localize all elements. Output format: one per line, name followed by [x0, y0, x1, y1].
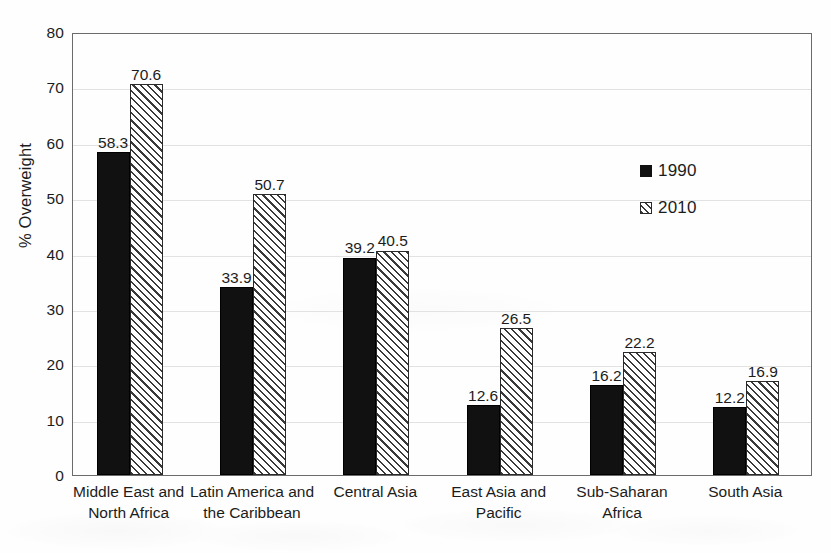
x-axis-label-line-2: the Caribbean: [177, 502, 327, 523]
y-axis-tick-labels: 80706050403020100: [18, 33, 64, 476]
solid-square-icon: [640, 165, 652, 177]
x-axis-label-line-1: Central Asia: [334, 483, 418, 500]
bar-value-label: 33.9: [221, 270, 251, 286]
bar-chart: % Overweight 80706050403020100 58.370.63…: [0, 0, 831, 553]
x-axis-label-line-1: Latin America and: [190, 483, 314, 500]
legend-item-2010[interactable]: 2010: [640, 195, 760, 221]
x-axis-label-south-asia: South Asia: [670, 481, 820, 502]
bar-group: 33.950.7: [220, 34, 286, 475]
chart-legend: 19902010: [640, 158, 760, 232]
bar-value-label: 12.6: [468, 388, 498, 404]
gridline-30: [73, 311, 811, 312]
legend-item-label: 2010: [658, 198, 697, 218]
bar-1990-east-asia-and-pacific[interactable]: 12.6: [467, 405, 500, 475]
y-tick-label-10: 10: [24, 413, 64, 429]
gridline-20: [73, 366, 811, 367]
bar-group: 12.626.5: [467, 34, 533, 475]
bar-value-label: 70.6: [131, 67, 161, 83]
bar-value-label: 39.2: [345, 240, 375, 256]
bar-value-label: 58.3: [98, 135, 128, 151]
bar-2010-middle-east-and-north-africa[interactable]: 70.6: [130, 84, 163, 475]
x-axis-label-line-1: South Asia: [708, 483, 782, 500]
x-axis-label-line-1: Sub-Saharan: [576, 483, 667, 500]
gridline-60: [73, 145, 811, 146]
bar-2010-east-asia-and-pacific[interactable]: 26.5: [500, 328, 533, 475]
y-tick-label-30: 30: [24, 302, 64, 318]
bar-1990-sub-saharan-africa[interactable]: 16.2: [590, 385, 623, 475]
y-tick-label-60: 60: [24, 136, 64, 152]
gridline-10: [73, 422, 811, 423]
bar-value-label: 40.5: [378, 233, 408, 249]
y-tick-label-40: 40: [24, 247, 64, 263]
bar-value-label: 16.9: [748, 364, 778, 380]
bar-2010-central-asia[interactable]: 40.5: [376, 251, 409, 475]
y-tick-label-20: 20: [24, 358, 64, 374]
bar-1990-central-asia[interactable]: 39.2: [343, 258, 376, 475]
bar-group: 58.370.6: [97, 34, 163, 475]
hatched-square-icon: [640, 202, 652, 214]
y-tick-label-70: 70: [24, 81, 64, 97]
x-axis-label-line-2: Africa: [547, 502, 697, 523]
y-tick-label-80: 80: [24, 25, 64, 41]
legend-item-1990[interactable]: 1990: [640, 158, 760, 184]
gridline-70: [73, 89, 811, 90]
bar-2010-sub-saharan-africa[interactable]: 22.2: [623, 352, 656, 475]
bar-value-label: 50.7: [254, 177, 284, 193]
bar-1990-south-asia[interactable]: 12.2: [713, 407, 746, 475]
bar-value-label: 22.2: [624, 335, 654, 351]
plot-area: 58.370.633.950.739.240.512.626.516.222.2…: [72, 33, 812, 476]
x-axis-category-labels: Middle East andNorth AfricaLatin America…: [72, 481, 812, 529]
legend-item-label: 1990: [658, 161, 697, 181]
x-axis-label-line-1: Middle East and: [73, 483, 184, 500]
bar-group: 12.216.9: [713, 34, 779, 475]
bar-2010-latin-america-and-the-caribbean[interactable]: 50.7: [253, 194, 286, 475]
bar-value-label: 26.5: [501, 311, 531, 327]
bar-group: 16.222.2: [590, 34, 656, 475]
bar-1990-latin-america-and-the-caribbean[interactable]: 33.9: [220, 287, 253, 475]
y-tick-label-50: 50: [24, 191, 64, 207]
x-axis-label-line-1: East Asia and: [451, 483, 546, 500]
bar-1990-middle-east-and-north-africa[interactable]: 58.3: [97, 152, 130, 475]
bar-2010-south-asia[interactable]: 16.9: [746, 381, 779, 475]
bar-value-label: 16.2: [591, 368, 621, 384]
bar-group: 39.240.5: [343, 34, 409, 475]
gridline-40: [73, 256, 811, 257]
bar-value-label: 12.2: [715, 390, 745, 406]
